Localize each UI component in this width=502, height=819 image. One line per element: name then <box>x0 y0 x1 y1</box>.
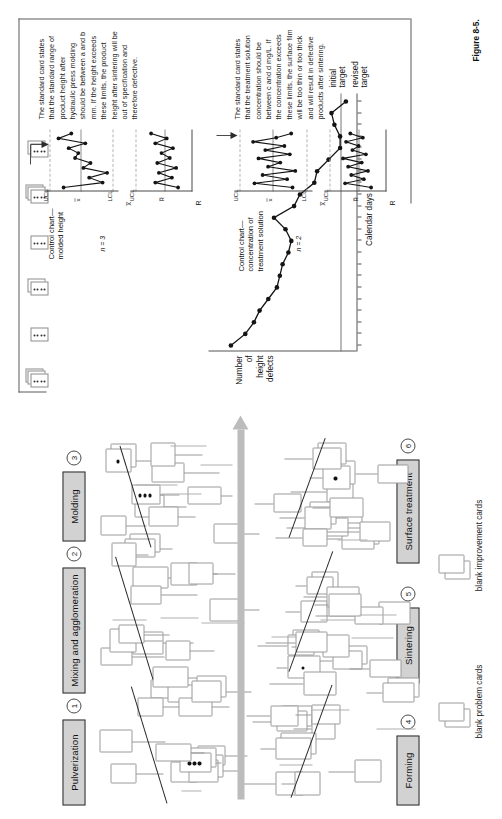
improvement-card[interactable] <box>382 682 414 702</box>
card-priority-dot <box>192 761 195 764</box>
card-stem <box>295 714 311 715</box>
process-step-label: Sintering <box>402 626 413 665</box>
card-field-tick <box>320 619 356 620</box>
problem-card[interactable] <box>152 666 188 687</box>
control-chart-2-r-ylabel: R <box>388 200 395 205</box>
problem-card[interactable] <box>137 697 163 715</box>
run-chart-tick <box>357 344 361 345</box>
problem-card[interactable] <box>213 523 240 543</box>
improvement-card[interactable] <box>328 593 362 616</box>
card-priority-dot <box>197 761 200 764</box>
improvement-card[interactable] <box>354 759 382 782</box>
run-chart-tick <box>357 298 361 299</box>
control-chart-1-n: n = 3 <box>98 235 105 251</box>
arrow-to-control-chart-1 <box>28 138 50 164</box>
process-step-number-3: 3 <box>66 450 81 465</box>
card-priority-dot <box>301 666 304 669</box>
card-stem <box>314 604 327 605</box>
improvement-card[interactable] <box>303 671 336 695</box>
process-step-number-5: 5 <box>400 586 415 601</box>
control-chart-1-xbar-series <box>44 129 118 191</box>
problem-card[interactable] <box>132 566 168 587</box>
step-number-text: 1 <box>69 703 78 707</box>
run-chart-tick <box>357 286 361 287</box>
card-stem <box>257 645 287 646</box>
problem-card[interactable] <box>187 486 222 505</box>
control-chart-2-r-center-label: R̅ <box>352 197 358 201</box>
problem-card[interactable] <box>155 743 191 761</box>
card-priority-dot <box>116 459 119 462</box>
bracket-top-horizontal <box>18 18 19 392</box>
card-stem <box>279 517 305 518</box>
card-stem <box>366 692 382 693</box>
problem-card[interactable] <box>130 585 161 604</box>
card-field-tick <box>181 790 201 791</box>
improvement-card[interactable] <box>329 497 363 518</box>
control-chart-1-r-series <box>130 129 192 191</box>
card-stem <box>276 667 287 668</box>
problem-card[interactable] <box>191 680 221 703</box>
control-chart-2-n: n = 2 <box>294 235 301 251</box>
run-chart-initial-target-label: initial target <box>328 33 347 87</box>
run-chart-tick <box>357 123 361 124</box>
improvement-card[interactable] <box>311 704 340 725</box>
card-stem <box>210 706 229 707</box>
improvement-card[interactable] <box>273 493 301 512</box>
process-step-number-6: 6 <box>400 438 415 453</box>
bracket-bottom-horizontal <box>410 18 411 203</box>
step-number-text: 6 <box>403 443 412 447</box>
control-chart-1-center-label: x̿ <box>74 198 80 201</box>
step-number-text: 5 <box>403 591 412 595</box>
card-stem <box>260 748 276 749</box>
step-number-text: 3 <box>69 455 78 459</box>
process-step-forming[interactable]: Forming <box>396 735 419 805</box>
improvement-card[interactable] <box>304 506 330 529</box>
process-step-molding[interactable]: Molding <box>62 471 85 541</box>
run-chart-tick <box>357 112 361 113</box>
card-stem <box>159 594 197 595</box>
step-number-text: 2 <box>69 551 78 555</box>
molded-height-annotation: The standard card states that the standa… <box>36 27 140 119</box>
control-chart-molded-height: Control chart— molded height n = 3 UCL x… <box>38 129 204 225</box>
run-chart-tick <box>357 274 361 275</box>
process-step-label: Pulverization <box>68 734 79 790</box>
improvement-card[interactable] <box>302 528 327 546</box>
process-step-pulverization[interactable]: Pulverization <box>62 719 85 805</box>
problem-card[interactable] <box>110 764 137 784</box>
problem-card[interactable] <box>209 598 239 621</box>
run-chart-tick <box>357 263 361 264</box>
problem-card[interactable] <box>188 562 213 584</box>
blank-improvement-cards-label: blank improvement cards <box>474 469 485 621</box>
process-step-label: Surface treatment <box>402 472 413 550</box>
process-step-label: Mixing and agglomeration <box>68 574 79 686</box>
card-stem <box>269 683 303 684</box>
process-step-label: Molding <box>68 489 79 523</box>
control-chart-1-r-center-label: R̅ <box>158 197 164 201</box>
card-stem <box>355 473 376 474</box>
run-chart-tick <box>357 251 361 252</box>
card-priority-dot <box>148 493 151 496</box>
run-chart-tick <box>357 239 361 240</box>
process-step-mixing-and-agglomeration[interactable]: Mixing and agglomeration <box>62 567 85 693</box>
control-chart-1-ucl-label: UCL <box>42 189 48 201</box>
card-priority-dot <box>187 761 190 764</box>
card-field-tick <box>279 764 313 765</box>
problem-card[interactable] <box>165 640 190 659</box>
improvement-card[interactable] <box>369 659 402 678</box>
card-stem <box>285 611 300 612</box>
step-number-text: 4 <box>403 719 412 723</box>
bracket-left-vertical <box>18 391 46 392</box>
problem-card[interactable] <box>100 515 126 535</box>
control-chart-1-lcl-label: LCL <box>106 190 112 201</box>
problem-card[interactable] <box>111 542 136 565</box>
blank-problem-card-front <box>438 702 464 721</box>
improvement-card[interactable] <box>359 521 390 541</box>
improvement-card[interactable] <box>270 705 298 727</box>
figure-canvas: Pulverization 1 Mixing and agglomeration… <box>0 0 502 819</box>
improvement-card[interactable] <box>377 464 409 483</box>
card-stem <box>290 491 326 492</box>
card-stem <box>173 454 203 455</box>
problem-card[interactable] <box>99 729 132 751</box>
card-stem <box>158 494 179 495</box>
problem-card[interactable] <box>148 506 178 526</box>
